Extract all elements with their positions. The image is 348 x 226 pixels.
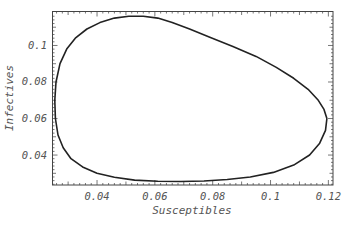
- y-tick-label: 0.1: [28, 39, 47, 51]
- plot-frame: [53, 12, 334, 186]
- x-tick-label: 0.04: [84, 190, 109, 202]
- x-axis-title: Susceptibles: [152, 204, 231, 217]
- y-tick-label: 0.08: [22, 75, 47, 87]
- y-axis-title: Infectives: [3, 65, 16, 131]
- phase-plane-chart: 0.040.060.080.10.12 0.040.060.080.1 Susc…: [0, 0, 348, 226]
- y-tick-label: 0.06: [22, 112, 47, 124]
- y-tick-labels: 0.040.060.080.1: [22, 39, 47, 161]
- axis-ticks: [53, 12, 334, 186]
- x-tick-label: 0.12: [316, 190, 341, 202]
- orbit-curve: [55, 16, 327, 181]
- x-tick-label: 0.08: [200, 190, 225, 202]
- x-tick-label: 0.06: [142, 190, 167, 202]
- y-tick-label: 0.04: [22, 149, 47, 161]
- x-tick-label: 0.1: [261, 190, 280, 202]
- x-tick-labels: 0.040.060.080.10.12: [84, 190, 341, 202]
